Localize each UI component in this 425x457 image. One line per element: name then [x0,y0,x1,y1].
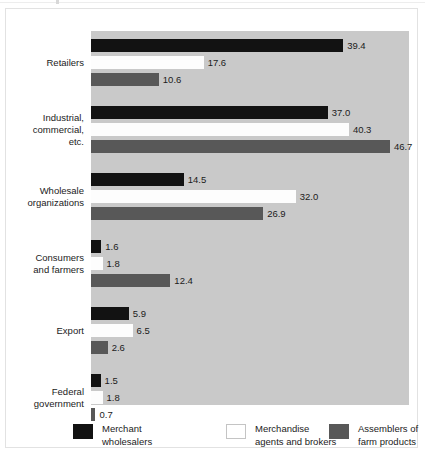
bar-row: 26.9 [91,207,409,220]
gray-swatch [329,424,349,439]
bar-value-label: 1.8 [103,391,120,404]
bar [91,240,101,253]
bar-value-label: 1.5 [101,374,118,387]
chart-legend: Merchant wholesalersMerchandise agents a… [11,417,424,457]
category-label: Export [6,307,84,354]
bar-value-label: 37.0 [328,106,351,119]
bar-value-label: 10.6 [159,73,182,86]
category-label-text: Export [57,325,84,337]
category-label: Wholesaleorganizations [6,173,84,220]
bar-value-label: 46.7 [390,140,413,153]
category-label-text: Industrial,commercial,etc. [33,112,84,148]
bar-row: 17.6 [91,56,409,69]
category-label-text: Consumersand farmers [33,252,84,276]
bar [91,307,129,320]
bar [91,173,184,186]
bar [91,56,204,69]
bar [91,324,133,337]
figure-card: Retailers39.417.610.6Industrial,commerci… [5,8,418,448]
scan-artifact-rule [0,2,425,3]
bar [91,207,263,220]
bar-value-label: 6.5 [133,324,150,337]
black-swatch [73,424,93,439]
bar-row: 2.6 [91,341,409,354]
category-label-text: Wholesaleorganizations [27,185,84,209]
bar-row: 39.4 [91,39,409,52]
bar-row: 12.4 [91,274,409,287]
category-label: Industrial,commercial,etc. [6,106,84,153]
bar-value-label: 40.3 [349,123,372,136]
category-label: Retailers [6,39,84,86]
bar-group: Export5.96.52.6 [6,307,425,354]
bar-value-label: 1.6 [101,240,118,253]
bar-group: Consumersand farmers1.61.812.4 [6,240,425,287]
bar-value-label: 5.9 [129,307,146,320]
category-label-text: Retailers [47,57,85,69]
bar-group: Federalgovernment1.51.80.7 [6,374,425,421]
bar-value-label: 12.4 [170,274,193,287]
bar-row: 32.0 [91,190,409,203]
legend-item: Merchandise agents and brokers [226,423,336,448]
legend-item: Merchant wholesalers [73,423,152,448]
bar [91,123,349,136]
category-label: Federalgovernment [6,374,84,421]
bar-row: 10.6 [91,73,409,86]
bar-row: 5.9 [91,307,409,320]
category-label-text: Federalgovernment [34,386,84,410]
white-swatch [226,424,246,439]
bar-value-label: 2.6 [108,341,125,354]
bar [91,39,343,52]
bar-group: Industrial,commercial,etc.37.040.346.7 [6,106,425,153]
legend-item: Assemblers of farm products [329,423,418,448]
bar [91,274,170,287]
bar [91,106,328,119]
bar-value-label: 39.4 [343,39,366,52]
bar [91,374,101,387]
bar-row: 37.0 [91,106,409,119]
legend-label: Merchant wholesalers [102,423,152,448]
legend-label: Assemblers of farm products [358,423,418,448]
bar-row: 40.3 [91,123,409,136]
bar-value-label: 32.0 [296,190,319,203]
bar [91,341,108,354]
bar-value-label: 17.6 [204,56,227,69]
bar-row: 1.8 [91,257,409,270]
bar-group: Retailers39.417.610.6 [6,39,425,86]
bar-row: 46.7 [91,140,409,153]
bar-value-label: 26.9 [263,207,286,220]
bar-group: Wholesaleorganizations14.532.026.9 [6,173,425,220]
bar [91,190,296,203]
bar-row: 1.5 [91,374,409,387]
scan-artifact-tick [56,0,59,4]
bar-value-label: 1.8 [103,257,120,270]
bar-group-container: Retailers39.417.610.6Industrial,commerci… [6,31,425,405]
bar-row: 1.8 [91,391,409,404]
bar-row: 6.5 [91,324,409,337]
bar [91,73,159,86]
bar [91,140,390,153]
legend-label: Merchandise agents and brokers [255,423,336,448]
bar-value-label: 14.5 [184,173,207,186]
bar [91,391,103,404]
bar [91,257,103,270]
bar-row: 14.5 [91,173,409,186]
category-label: Consumersand farmers [6,240,84,287]
bar-row: 1.6 [91,240,409,253]
